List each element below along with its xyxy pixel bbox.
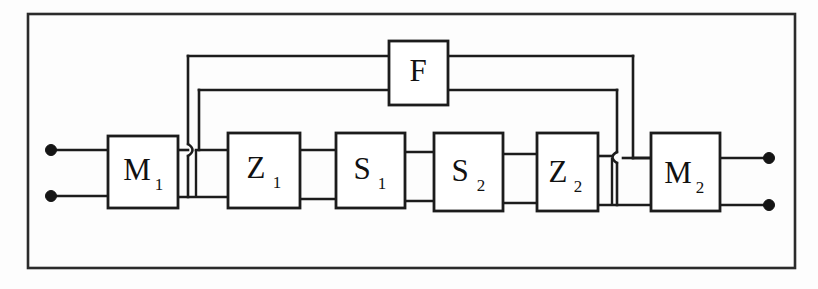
block-Z2[interactable]: Z 2 [537, 133, 598, 211]
block-S2[interactable]: S 2 [434, 133, 503, 211]
block-F-label: F [409, 53, 426, 88]
block-S1-subscript: 1 [378, 174, 387, 193]
block-S1-label: S [353, 151, 370, 186]
block-diagram-figure: M 1 Z 1 S 1 S 2 Z 2 M 2 [0, 0, 818, 289]
block-Z2-box[interactable] [537, 133, 598, 211]
terminal-input-top[interactable] [46, 145, 57, 156]
schematic-canvas: M 1 Z 1 S 1 S 2 Z 2 M 2 [0, 0, 818, 289]
block-Z1[interactable]: Z 1 [228, 133, 300, 208]
block-M1-subscript: 1 [155, 175, 164, 194]
terminal-output-bottom[interactable] [764, 200, 775, 211]
block-Z1-label: Z [247, 150, 266, 185]
block-M2[interactable]: M 2 [651, 133, 720, 211]
block-S2-subscript: 2 [477, 176, 486, 195]
block-M1-label: M [123, 152, 151, 187]
block-M1[interactable]: M 1 [108, 136, 178, 208]
terminal-output-top[interactable] [764, 153, 775, 164]
terminal-input-bottom[interactable] [46, 191, 57, 202]
block-Z2-label: Z [549, 154, 568, 189]
block-M2-subscript: 2 [696, 178, 705, 197]
block-Z1-subscript: 1 [273, 173, 282, 192]
block-S1[interactable]: S 1 [336, 133, 405, 208]
block-M2-label: M [664, 155, 692, 190]
block-S2-label: S [451, 153, 468, 188]
block-F[interactable]: F [389, 41, 448, 105]
block-Z2-subscript: 2 [574, 177, 583, 196]
